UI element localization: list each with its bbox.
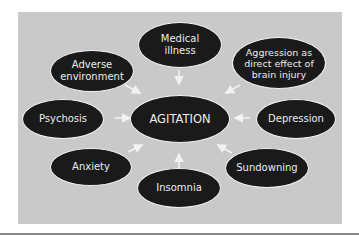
- divider-line: [0, 233, 359, 235]
- node-aggression: Aggression as direct effect of brain inj…: [232, 37, 326, 89]
- arrow-anxiety: [128, 145, 142, 152]
- arrow-aggression: [226, 85, 240, 93]
- node-insomnia: Insomnia: [137, 168, 221, 208]
- node-agitation: AGITATION: [130, 95, 230, 143]
- node-anxiety: Anxiety: [50, 148, 132, 186]
- arrow-adverse: [125, 85, 140, 93]
- node-adverse-environment: Adverse environment: [50, 50, 134, 92]
- node-depression: Depression: [256, 99, 336, 139]
- node-sundowning: Sundowning: [225, 148, 309, 188]
- node-medical-illness: Medical illness: [138, 22, 222, 68]
- arrow-sundowning: [218, 145, 232, 153]
- node-psychosis: Psychosis: [22, 99, 104, 139]
